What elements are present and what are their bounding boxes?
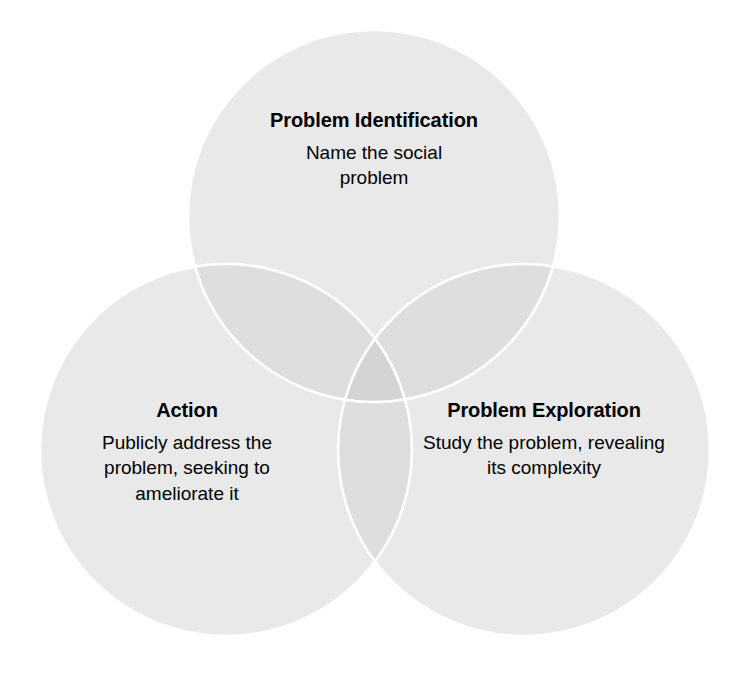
venn-circles-graphic (0, 0, 745, 673)
venn-diagram: Problem Identification Name the social p… (0, 0, 745, 673)
